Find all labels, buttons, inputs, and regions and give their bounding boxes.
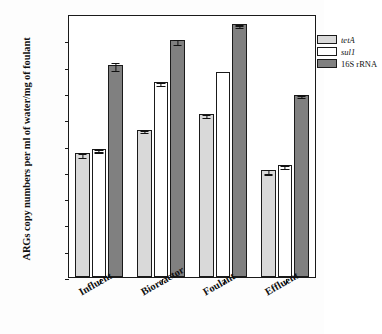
- error-bar-cap: [281, 169, 290, 170]
- legend-label: sul1: [341, 47, 355, 57]
- y-tick-mark: [65, 253, 69, 254]
- error-bar-cap: [111, 71, 120, 72]
- plot-area: 1E+081E+071E+061E+051E+041E+031E+021E+01…: [68, 15, 316, 278]
- error-bar-cap: [264, 170, 273, 171]
- legend-swatch-teta: [317, 35, 337, 44]
- bar-bioreactor-teta: [137, 130, 152, 277]
- bar-influent-16s-rrna: [108, 65, 123, 277]
- error-bar-cap: [78, 153, 87, 154]
- error-bar-cap: [157, 86, 166, 87]
- legend-label: 16S rRNA: [341, 59, 377, 69]
- bar-foulant-sul1: [216, 72, 231, 277]
- bar-bioreactor-sul1: [154, 82, 169, 277]
- y-tick-mark: [65, 121, 69, 122]
- error-bar-cap: [157, 83, 166, 84]
- y-tick-mark: [65, 200, 69, 201]
- error-bar-cap: [202, 118, 211, 119]
- y-tick-mark: [65, 174, 69, 175]
- y-tick-mark: [65, 148, 69, 149]
- y-tick-mark: [65, 95, 69, 96]
- bar-effluent-sul1: [278, 165, 293, 277]
- legend-item-sul1[interactable]: sul1: [317, 46, 382, 57]
- legend-item-16s-rrna[interactable]: 16S rRNA: [317, 58, 382, 69]
- error-bar-cap: [235, 25, 244, 26]
- chart-legend: tetAsul116S rRNA: [315, 32, 382, 73]
- bar-foulant-teta: [199, 114, 214, 277]
- y-tick-mark: [65, 69, 69, 70]
- legend-swatch-sul1: [317, 47, 337, 56]
- error-bar-cap: [95, 152, 104, 153]
- error-bar-cap: [297, 98, 306, 99]
- bar-influent-teta: [75, 153, 90, 277]
- y-tick-mark: [65, 226, 69, 227]
- error-bar-cap: [140, 130, 149, 131]
- error-bar-cap: [173, 40, 182, 41]
- error-bar-cap: [297, 95, 306, 96]
- bar-effluent-16s-rrna: [294, 95, 309, 277]
- bar-foulant-16s-rrna: [232, 24, 247, 277]
- error-bar-cap: [235, 28, 244, 29]
- y-axis-title: ARGs copy numbers per ml of water/mg of …: [21, 4, 37, 294]
- error-bar-cap: [78, 158, 87, 159]
- y-tick-mark: [65, 42, 69, 43]
- error-bar-cap: [173, 45, 182, 46]
- error-bar-cap: [202, 115, 211, 116]
- error-bar-cap: [281, 165, 290, 166]
- y-tick-mark: [65, 279, 69, 280]
- legend-label: tetA: [341, 35, 355, 45]
- error-bar-cap: [95, 149, 104, 150]
- error-bar-cap: [111, 63, 120, 64]
- bar-influent-sul1: [92, 149, 107, 277]
- legend-item-teta[interactable]: tetA: [317, 34, 382, 45]
- bar-bioreactor-16s-rrna: [170, 40, 185, 277]
- legend-swatch-16s-rrna: [317, 59, 337, 68]
- bar-effluent-teta: [261, 170, 276, 277]
- error-bar-cap: [140, 133, 149, 134]
- error-bar-cap: [264, 174, 273, 175]
